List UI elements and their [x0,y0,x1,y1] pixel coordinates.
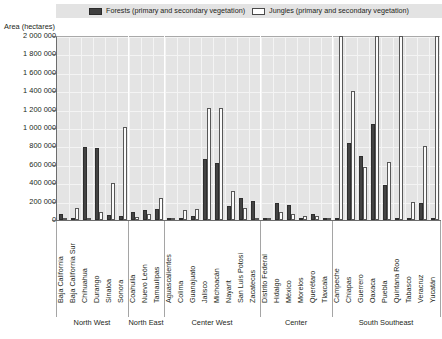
gridline-vertical [285,37,286,220]
bar-jungles [123,127,127,220]
x-axis-tick-label: Tamaulipas [153,267,161,303]
y-axis-tick-mark [52,146,56,147]
legend-swatch-light-icon [252,8,265,15]
region-separator-plot [260,36,261,220]
x-axis-tick-label: Hidalgo [273,279,281,303]
bar-jungles [411,202,415,220]
bar-jungles [387,162,391,220]
gridline-vertical [393,37,394,220]
x-axis-tick-label: Aguascalientes [165,254,173,303]
gridline-vertical [417,37,418,220]
bar-jungles [375,36,379,220]
y-axis-tick-mark [52,165,56,166]
gridline-vertical [237,37,238,220]
y-axis-tick-mark [52,110,56,111]
y-axis: 2 000 0001 800 0001 600 0001 400 0001 20… [0,0,56,339]
bar-forests [131,212,135,220]
x-axis-tick-label: Zacatecas [249,270,257,303]
x-axis-category-labels: Baja CaliforniaBaja California SurChihua… [56,221,441,303]
region-separator-plot [128,36,129,220]
x-axis-tick-label: Baja California Sur [69,243,77,303]
x-axis-tick-label: Coahuila [129,275,137,303]
bar-forests [83,147,87,220]
x-axis-tick-label: Distrito Federal [261,254,269,303]
bar-forests [143,210,147,220]
bar-jungles [219,108,223,220]
region-separator [332,221,333,317]
y-axis-tick-mark [52,183,56,184]
y-axis-tick-label: 1 800 000 [4,50,56,58]
y-axis-tick-label: 400 000 [4,179,56,187]
gridline-vertical [273,37,274,220]
x-axis-tick-label: San Luis Potosí [237,253,245,303]
legend-entry-jungles: Jungles (primary and secondary vegetatio… [252,7,409,15]
bar-forests [287,205,291,220]
y-axis-tick-mark [52,202,56,203]
bar-forests [419,203,423,220]
bar-forests [203,159,207,220]
region-separator-plot [332,36,333,220]
y-axis-tick-mark [52,91,56,92]
bar-jungles [339,36,343,220]
gridline-vertical [117,37,118,220]
bar-jungles [111,183,115,220]
gridline-vertical [189,37,190,220]
region-separator [128,221,129,317]
y-axis-tick-label: 0 [4,216,56,224]
legend-entry-forests: Forests (primary and secondary vegetatio… [89,7,245,15]
bar-jungles [351,91,355,220]
bar-forests [275,203,279,220]
x-axis-tick-label: Nayarit [225,280,233,303]
bar-forests [359,156,363,220]
y-axis-tick-mark [52,128,56,129]
gridline-vertical [105,37,106,220]
bar-jungles [279,212,283,220]
region-separator-plot [164,36,165,220]
region-separator [260,221,261,317]
x-axis-tick-label: Guerrero [357,274,365,303]
bar-jungles [435,36,439,220]
gridline-vertical [333,37,334,220]
gridline-vertical [309,37,310,220]
bar-forests [227,206,231,220]
bar-jungles [183,210,187,220]
region-separator [164,221,165,317]
bar-forests [95,148,99,220]
gridline-vertical [261,37,262,220]
legend-label-jungles: Jungles (primary and secondary vegetatio… [269,7,409,15]
bar-forests [383,185,387,220]
x-axis-tick-label: Tlaxcala [321,276,329,303]
gridline-vertical [249,37,250,220]
bar-jungles [363,167,367,220]
bar-jungles [75,208,79,220]
x-axis-tick-label: Jalisco [201,281,209,303]
x-axis-tick-label: Sinaloa [105,279,113,303]
chart-legend: Forests (primary and secondary vegetatio… [56,4,442,18]
region-label: South Southeast [332,318,440,327]
gridline-vertical [177,37,178,220]
x-axis-tick-label: Yucatán [429,277,437,303]
bar-forests [239,198,243,220]
gridline-vertical [165,37,166,220]
y-axis-tick-label: 2 000 000 [4,32,56,40]
bar-forests [215,163,219,220]
y-axis-tick-mark [52,54,56,55]
region-label: North West [56,318,128,327]
region-label: Center [260,318,332,327]
x-axis-tick-label: Colima [177,281,185,303]
x-axis-tick-label: Tabasco [405,276,413,303]
gridline-vertical [429,37,430,220]
bar-jungles [159,198,163,220]
gridline-vertical [297,37,298,220]
bar-jungles [195,209,199,220]
gridline-vertical [69,37,70,220]
x-axis-tick-label: Querétaro [309,271,317,303]
gridline-vertical [321,37,322,220]
x-axis-tick-label: Michoacán [213,268,221,303]
legend-label-forests: Forests (primary and secondary vegetatio… [106,7,245,15]
bar-jungles [399,36,403,220]
bar-forests [155,209,159,220]
x-axis-tick-label: Nuevo León [141,264,149,303]
bar-jungles [99,212,103,220]
x-axis-tick-label: Sonora [117,280,125,303]
